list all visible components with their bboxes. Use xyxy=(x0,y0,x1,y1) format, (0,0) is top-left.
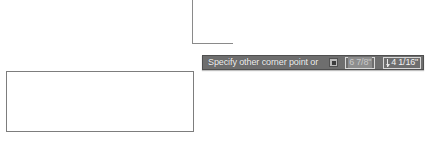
dynamic-input-tooltip[interactable]: Specify other corner point or 6 7/8" 4 1… xyxy=(202,55,424,70)
height-dimension-input[interactable]: 4 1/16" xyxy=(383,57,421,69)
drawing-canvas[interactable]: Specify other corner point or 6 7/8" 4 1… xyxy=(0,0,426,165)
crosshair-horizontal-line xyxy=(192,43,233,44)
height-dimension-value: 4 1/16" xyxy=(391,57,418,68)
dropdown-glyph xyxy=(332,61,336,65)
crosshair-vertical-line xyxy=(192,0,193,44)
width-dimension-input[interactable]: 6 7/8" xyxy=(345,57,375,69)
down-arrow-icon xyxy=(386,59,390,67)
command-prompt-label: Specify other corner point or xyxy=(205,56,320,69)
rectangle-preview xyxy=(6,71,194,132)
width-dimension-value: 6 7/8" xyxy=(348,57,372,68)
dropdown-square-icon[interactable] xyxy=(329,58,338,67)
